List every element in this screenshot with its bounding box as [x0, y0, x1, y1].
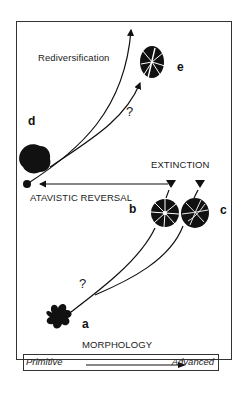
specimen-e-shape	[140, 46, 165, 78]
axis-label-advanced: Advanced	[172, 356, 214, 367]
specimen-d-shape	[19, 144, 50, 173]
atavistic-reversal-label: ATAVISTIC REVERSAL	[30, 192, 132, 203]
specimen-label-a: a	[82, 317, 89, 331]
axis-label-primitive: Primitive	[26, 356, 62, 367]
specimen-b-shape	[151, 199, 179, 227]
morphology-label: MORPHOLOGY	[82, 339, 152, 350]
extinction-line-c	[194, 190, 198, 198]
extinction-label: EXTINCTION	[151, 159, 210, 170]
morphology-axis: Primitive Advanced	[23, 354, 219, 371]
lineage-a-to-b	[71, 228, 155, 312]
rediversification-label: Rediversification	[38, 52, 109, 63]
question-mark-lower: ?	[79, 276, 86, 291]
extinction-marker-c	[195, 180, 205, 188]
specimen-label-d: d	[28, 114, 35, 128]
arrow-to-e	[50, 83, 140, 167]
question-mark-upper: ?	[126, 104, 133, 119]
specimen-label-b: b	[129, 202, 136, 216]
specimen-a-shape	[46, 304, 71, 328]
lineage-a-to-c	[95, 226, 183, 295]
specimen-c-shape	[181, 198, 209, 228]
specimen-label-e: e	[177, 60, 184, 74]
specimen-label-c: c	[220, 203, 227, 217]
extinction-line-b	[166, 190, 169, 198]
